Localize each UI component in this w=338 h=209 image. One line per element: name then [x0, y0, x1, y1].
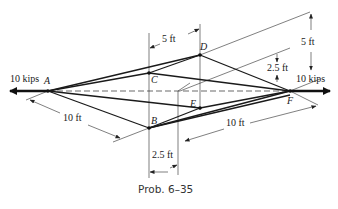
extension-line-b	[113, 128, 149, 142]
joint-label-a: A	[43, 75, 51, 86]
dim-top-right-arrow	[188, 29, 199, 34]
load-label-right: 10 kips	[296, 73, 325, 84]
dim-right-height-label: 5 ft	[301, 36, 315, 47]
dim-top-left-arrow	[150, 44, 160, 48]
dim-bottom-offset-label: 2.5 ft	[152, 149, 173, 160]
space-truss-diagram: 10 kips 10 kips A C D E B F 5 ft 5 ft 2.…	[0, 0, 338, 209]
joint-label-f: F	[286, 95, 294, 106]
joint-label-d: D	[199, 41, 208, 52]
extension-line-a	[26, 91, 48, 100]
extension-line-f-low	[290, 91, 318, 105]
dim-right-length-a	[250, 106, 316, 123]
dim-left-length-b	[88, 125, 120, 138]
joint-label-b: B	[151, 115, 157, 126]
dim-left-length-label: 10 ft	[63, 112, 82, 123]
figure-caption: Prob. 6–35	[138, 183, 193, 195]
dim-top-width-label: 5 ft	[162, 33, 176, 44]
dim-right-length-label: 10 ft	[226, 117, 245, 128]
extension-line-d	[200, 12, 310, 55]
joint-label-e: E	[189, 98, 196, 109]
joints	[46, 53, 292, 130]
dim-bottom-offset-arrow2	[170, 165, 177, 168]
load-label-left: 10 kips	[10, 73, 39, 84]
truss-members	[48, 55, 290, 128]
joint-label-c: C	[151, 74, 158, 85]
dim-right-offset-label: 2.5 ft	[267, 62, 288, 73]
dim-right-length-b	[185, 129, 224, 141]
dim-left-length-a	[30, 100, 60, 113]
